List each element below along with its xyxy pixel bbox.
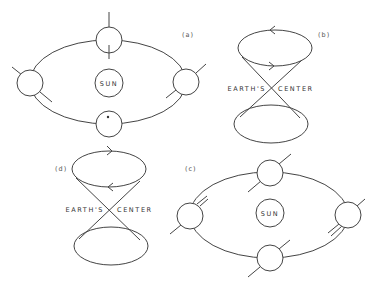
panel-c: (c) SUN: [170, 154, 365, 277]
sun-label-a: SUN: [100, 80, 119, 88]
planet-right-a: [166, 64, 206, 98]
arrow-right-icon: [107, 146, 112, 155]
center-label-right-b: CENTER: [278, 85, 314, 93]
planet-top-a: [96, 12, 122, 59]
planet-bottom-c: [248, 240, 290, 277]
planet-left-a: [12, 67, 52, 102]
center-label-left-d: EARTH'S: [65, 206, 104, 214]
precession-circle-bottom-b: [234, 105, 308, 143]
panel-a-tag: (a): [182, 31, 194, 39]
planet-right-c: [328, 199, 365, 236]
sun-c: SUN: [256, 199, 284, 227]
figure-canvas: (a) SUN (b): [0, 0, 379, 285]
pole-dot: [107, 116, 109, 118]
panel-c-tag: (c): [185, 165, 197, 173]
center-label-right-d: CENTER: [117, 206, 153, 214]
planet-bottom-a: [96, 111, 122, 137]
panel-b: (b) EARTH'S CENTER: [227, 26, 330, 143]
sun-label-c: SUN: [261, 210, 280, 218]
panel-b-tag: (b): [318, 31, 330, 39]
panel-a: (a) SUN: [12, 12, 206, 137]
panel-d: (d) EARTH'S CENTER: [55, 146, 153, 265]
panel-d-tag: (d): [55, 165, 67, 173]
center-label-left-b: EARTH'S: [227, 85, 266, 93]
sun-a: SUN: [95, 69, 123, 97]
precession-circle-top-d: [72, 151, 146, 187]
planet-left-c: [170, 196, 208, 234]
